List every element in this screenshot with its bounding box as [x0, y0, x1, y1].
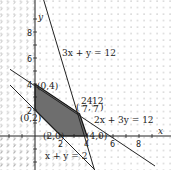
- x-tick-label: 4: [84, 140, 89, 149]
- svg-text:7: 7: [93, 104, 99, 114]
- label-x-plus-y: x + y = 2: [45, 151, 87, 161]
- x-tick-label: 8: [136, 140, 141, 149]
- label-2x-plus-3y: 2x + 3y = 12: [94, 115, 154, 125]
- point-label-0-4: (0,4): [37, 81, 58, 91]
- label-3x-plus-y: 3x + y = 12: [62, 48, 116, 58]
- point-label-2-0: (2,0): [43, 131, 64, 141]
- x-axis-label: x: [158, 126, 163, 136]
- y-tick-label: 4: [27, 81, 32, 90]
- x-tick-label: 2: [58, 140, 63, 149]
- y-tick-label: 8: [27, 29, 32, 38]
- svg-text:,: ,: [88, 102, 91, 112]
- x-tick-label: 6: [110, 140, 115, 149]
- svg-text:): ): [100, 102, 104, 112]
- svg-text:(: (: [76, 102, 80, 112]
- feasible-region-graph: 2 4 6 8 2 4 6 8 y x 3x + y = 12 2x + 3y …: [0, 0, 171, 170]
- y-tick-label: 6: [27, 55, 32, 64]
- point-label-0-2: (0,2): [20, 113, 41, 123]
- point-label-4-0: (4,0): [86, 131, 107, 141]
- y-axis-label: y: [37, 12, 44, 22]
